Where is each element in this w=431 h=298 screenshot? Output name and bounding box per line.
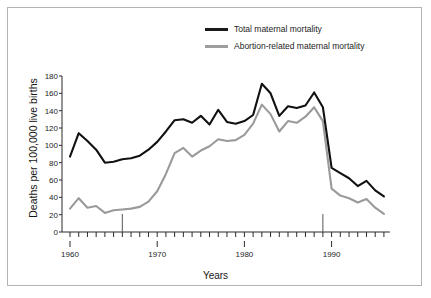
y-tick-label: 100 — [45, 141, 59, 150]
y-tick-label: 140 — [45, 107, 59, 116]
y-tick-label: 60 — [49, 176, 58, 185]
y-tick-label: 160 — [45, 89, 59, 98]
y-tick-label: 180 — [45, 72, 59, 81]
y-tick-label: 40 — [49, 193, 58, 202]
y-tick-label-group: 020406080100120140160180 — [45, 72, 59, 237]
x-tick-label: 1990 — [323, 250, 341, 259]
y-tick-label: 120 — [45, 124, 59, 133]
y-tick-label: 20 — [49, 211, 58, 220]
figure-caption — [8, 289, 428, 298]
x-tick-label: 1970 — [148, 250, 166, 259]
x-tick-label: 1960 — [61, 250, 79, 259]
figure-root: Total maternal mortality Abortion-relate… — [0, 0, 431, 298]
y-tick-label: 0 — [54, 228, 59, 237]
y-tick-label: 80 — [49, 159, 58, 168]
chart-plot-area: 020406080100120140160180 196019701980199… — [0, 0, 431, 298]
x-tick-label-group: 1960197019801990 — [61, 250, 341, 259]
axis-lines-group — [62, 76, 390, 232]
x-tick-label: 1980 — [236, 250, 254, 259]
vertical-marker-group — [122, 214, 323, 232]
